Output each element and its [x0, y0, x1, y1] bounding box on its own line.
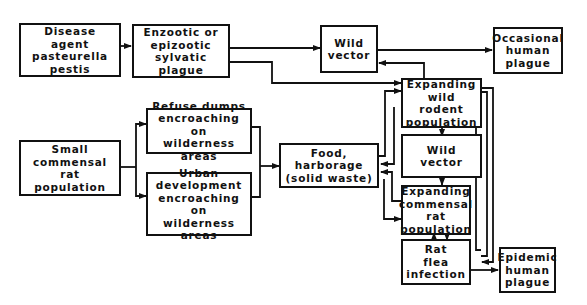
node-rat-flea-infection: Rat flea infection: [401, 239, 471, 285]
node-disease-agent: Disease agent pasteurella pestis: [19, 23, 121, 77]
node-urban-development: Urban development encroaching on wildern…: [146, 172, 252, 236]
node-wild-vector-mid: Wild vector: [401, 134, 482, 178]
node-expanding-commensal-rat: Expanding commensal rat population: [401, 185, 471, 235]
node-expanding-wild-rodent: Expanding wild rodent population: [401, 78, 482, 128]
node-epidemic-human-plague: Epidemic human plague: [499, 247, 556, 293]
node-refuse-dumps: Refuse dumps encroaching on wilderness a…: [146, 108, 252, 154]
node-wild-vector-top: Wild vector: [320, 25, 378, 73]
node-small-commensal-rat-population: Small commensal rat population: [19, 140, 121, 196]
node-occasional-human-plague: Occasional human plague: [493, 27, 563, 74]
node-sylvatic-plague: Enzootic or epizootic sylvatic plague: [132, 24, 230, 78]
node-food-harborage: Food, harborage (solid waste): [279, 143, 379, 188]
